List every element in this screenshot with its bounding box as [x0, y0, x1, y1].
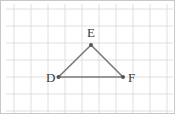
- grid-layer: [6, 4, 173, 113]
- triangle-vertex-dots: [57, 43, 126, 79]
- vertex-label-e: E: [87, 25, 95, 40]
- triangle-layer: DEF: [46, 25, 135, 85]
- vertex-label-f: F: [128, 70, 135, 85]
- edge-DE: [59, 45, 92, 77]
- edge-EF: [91, 45, 123, 77]
- geometry-figure-container: DEF: [0, 0, 175, 114]
- triangle-edges: [59, 45, 124, 77]
- vertex-dot-f: [121, 75, 125, 79]
- geometry-figure-svg: DEF: [1, 1, 175, 114]
- vertex-label-d: D: [46, 70, 55, 85]
- vertex-dot-d: [57, 75, 61, 79]
- vertex-dot-e: [89, 43, 93, 47]
